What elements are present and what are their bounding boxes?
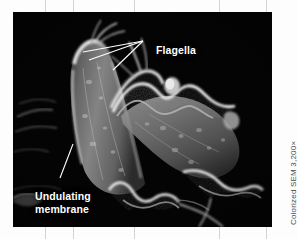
annotation-line-1: Undulating [35, 190, 91, 202]
annotation-line-2: membrane [35, 203, 89, 215]
annotation-label-undulating-membrane: Undulatingmembrane [35, 190, 91, 215]
magnification-credit: Colorized SEM 3,200× [272, 12, 298, 227]
figure-root: Flagella Undulatingmembrane Colorized SE… [0, 0, 298, 239]
annotation-label-flagella: Flagella [156, 44, 196, 57]
sem-micrograph-plate: Flagella Undulatingmembrane [13, 12, 272, 227]
magnification-credit-text: Colorized SEM 3,200× [289, 141, 298, 225]
